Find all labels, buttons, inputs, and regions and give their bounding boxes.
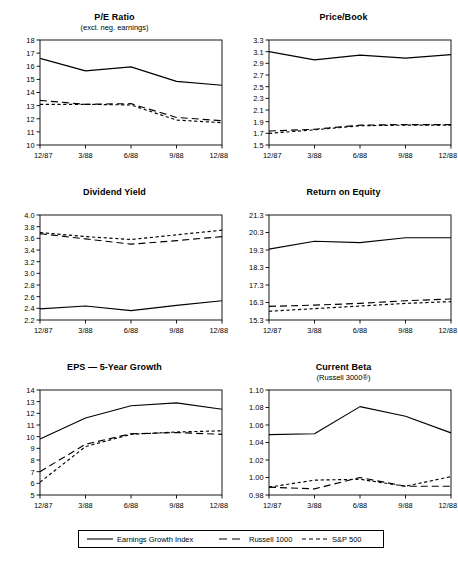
y-axis-tick-label: 1.08 xyxy=(249,403,263,412)
plot-area: 15.316.317.318.319.320.321.312/873/886/8… xyxy=(229,177,458,352)
series-line xyxy=(269,125,451,131)
series-line xyxy=(40,100,222,120)
y-axis-tick-label: 1.02 xyxy=(249,456,263,465)
y-axis-tick-label: 2.7 xyxy=(253,71,263,80)
y-axis-tick-label: 1.10 xyxy=(249,386,263,395)
y-axis-tick-label: 2.1 xyxy=(253,106,263,115)
y-axis-tick-label: 2.3 xyxy=(253,94,263,103)
y-axis-tick-label: 15 xyxy=(26,75,34,84)
x-axis-tick-label: 9/88 xyxy=(398,501,412,510)
y-axis-tick-label: 10 xyxy=(26,141,34,150)
plot-area: 0.981.001.021.041.061.081.1012/873/886/8… xyxy=(229,352,458,527)
x-axis-tick-label: 6/88 xyxy=(124,326,138,335)
x-axis-tick-label: 3/88 xyxy=(307,151,321,160)
solid-line-swatch xyxy=(87,535,113,543)
chart-grid: P/E Ratio (excl. neg. earnings) 10111213… xyxy=(0,0,458,518)
y-axis-tick-label: 1.06 xyxy=(249,421,263,430)
series-line xyxy=(40,431,222,482)
y-axis-tick-label: 16.3 xyxy=(249,298,263,307)
chart-panel-current-beta: Current Beta (Russell 3000®) 0.981.001.0… xyxy=(229,352,458,527)
y-axis-tick-label: 0.98 xyxy=(249,491,263,500)
y-axis-tick-label: 2.8 xyxy=(24,281,34,290)
y-axis-tick-label: 13 xyxy=(26,102,34,111)
figure-legend: Earnings Growth Index Russell 1000 S&P 5… xyxy=(78,530,384,548)
figure-caption xyxy=(0,551,458,562)
plot-area: 2.22.42.62.83.03.23.43.63.84.012/873/886… xyxy=(0,177,229,352)
series-line xyxy=(269,52,451,60)
x-axis-tick-label: 3/88 xyxy=(78,501,92,510)
y-axis-tick-label: 2.4 xyxy=(24,304,34,313)
y-axis-tick-label: 18.3 xyxy=(249,263,263,272)
series-line xyxy=(40,230,222,239)
chart-panel-pe-ratio: P/E Ratio (excl. neg. earnings) 10111213… xyxy=(0,2,229,177)
series-line xyxy=(269,125,451,133)
y-axis-tick-label: 7 xyxy=(30,468,34,477)
series-line xyxy=(40,58,222,85)
chart-panel-return-on-equity: Return on Equity 15.316.317.318.319.320.… xyxy=(229,177,458,352)
y-axis-tick-label: 21.3 xyxy=(249,211,263,220)
plot-frame xyxy=(269,390,451,495)
plot-area: 10111213141516171812/873/886/889/8812/88 xyxy=(0,2,229,177)
x-axis-tick-label: 3/88 xyxy=(78,151,92,160)
y-axis-tick-label: 13 xyxy=(26,398,34,407)
plot-frame xyxy=(40,40,222,145)
x-axis-tick-label: 3/88 xyxy=(307,501,321,510)
chart-panel-eps-5-year-growth: EPS — 5-Year Growth 56789101112131412/87… xyxy=(0,352,229,527)
x-axis-tick-label: 12/88 xyxy=(210,151,229,160)
series-line xyxy=(269,478,451,489)
legend-item-sp-500: S&P 500 xyxy=(302,531,361,547)
y-axis-tick-label: 1.9 xyxy=(253,118,263,127)
plot-frame xyxy=(269,40,451,145)
series-line xyxy=(269,299,451,306)
y-axis-tick-label: 3.6 xyxy=(24,234,34,243)
x-axis-tick-label: 9/88 xyxy=(398,326,412,335)
y-axis-tick-label: 4.0 xyxy=(24,211,34,220)
y-axis-tick-label: 11 xyxy=(27,421,35,430)
x-axis-tick-label: 12/88 xyxy=(210,501,229,510)
y-axis-tick-label: 2.5 xyxy=(253,83,263,92)
legend-item-russell-1000: Russell 1000 xyxy=(219,531,292,547)
y-axis-tick-label: 10 xyxy=(26,433,34,442)
x-axis-tick-label: 6/88 xyxy=(124,151,138,160)
y-axis-tick-label: 3.8 xyxy=(24,223,34,232)
x-axis-tick-label: 12/87 xyxy=(263,326,282,335)
y-axis-tick-label: 12 xyxy=(26,115,34,124)
y-axis-tick-label: 3.2 xyxy=(24,258,34,267)
x-axis-tick-label: 6/88 xyxy=(353,151,367,160)
y-axis-tick-label: 18 xyxy=(26,36,34,45)
y-axis-tick-label: 3.3 xyxy=(253,36,263,45)
y-axis-tick-label: 6 xyxy=(30,479,34,488)
series-line xyxy=(269,238,451,249)
legend-label: Russell 1000 xyxy=(249,535,292,544)
x-axis-tick-label: 12/87 xyxy=(34,151,53,160)
series-line xyxy=(40,433,222,472)
series-line xyxy=(40,104,222,122)
x-axis-tick-label: 12/87 xyxy=(263,151,282,160)
series-line xyxy=(269,407,451,435)
x-axis-tick-label: 12/87 xyxy=(263,501,282,510)
chart-panel-dividend-yield: Dividend Yield 2.22.42.62.83.03.23.43.63… xyxy=(0,177,229,352)
series-line xyxy=(269,477,451,488)
y-axis-tick-label: 3.4 xyxy=(24,246,34,255)
y-axis-tick-label: 15.3 xyxy=(249,316,263,325)
plot-area: 1.51.71.92.12.32.52.72.93.13.312/873/886… xyxy=(229,2,458,177)
x-axis-tick-label: 9/88 xyxy=(169,151,183,160)
legend-label: S&P 500 xyxy=(332,535,361,544)
y-axis-tick-label: 11 xyxy=(27,128,35,137)
y-axis-tick-label: 14 xyxy=(26,386,34,395)
y-axis-tick-label: 2.6 xyxy=(24,293,34,302)
x-axis-tick-label: 3/88 xyxy=(307,326,321,335)
y-axis-tick-label: 2.2 xyxy=(24,316,34,325)
x-axis-tick-label: 12/87 xyxy=(34,501,53,510)
x-axis-tick-label: 9/88 xyxy=(398,151,412,160)
legend-label: Earnings Growth Index xyxy=(117,535,193,544)
chart-panel-price-book: Price/Book 1.51.71.92.12.32.52.72.93.13.… xyxy=(229,2,458,177)
y-axis-tick-label: 12 xyxy=(26,409,34,418)
y-axis-tick-label: 1.04 xyxy=(249,438,263,447)
x-axis-tick-label: 12/88 xyxy=(439,326,458,335)
y-axis-tick-label: 3.0 xyxy=(24,269,34,278)
long-dash-line-swatch xyxy=(219,535,245,543)
y-axis-tick-label: 8 xyxy=(30,456,34,465)
y-axis-tick-label: 17.3 xyxy=(249,281,263,290)
y-axis-tick-label: 9 xyxy=(30,444,34,453)
